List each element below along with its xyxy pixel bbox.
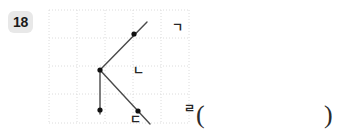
answer-close-paren: ) [324, 100, 333, 130]
problem-number-badge: 18 [8, 11, 33, 33]
vertex-label-lower-right: ㄹ [184, 103, 195, 115]
point-marker-top-right [131, 31, 136, 36]
ray-vertex-to-lower-right [100, 70, 150, 124]
problem-number: 18 [13, 15, 28, 29]
geometry-figure-panel: ㄱ ㄴ ㄷ ㄹ [48, 8, 190, 125]
point-marker-bottom [97, 107, 102, 112]
worksheet-problem: 18 [0, 0, 356, 139]
vertex-label-vertex: ㄴ [133, 65, 144, 77]
answer-open-paren: ( [196, 100, 205, 130]
answer-blank[interactable]: ( ) [196, 100, 346, 130]
ray-vertex-to-top [100, 22, 147, 70]
vertex-label-top-right: ㄱ [172, 22, 183, 34]
vertex-label-bottom: ㄷ [130, 114, 141, 126]
point-marker-vertex [97, 67, 102, 72]
angle-figure [48, 8, 190, 125]
